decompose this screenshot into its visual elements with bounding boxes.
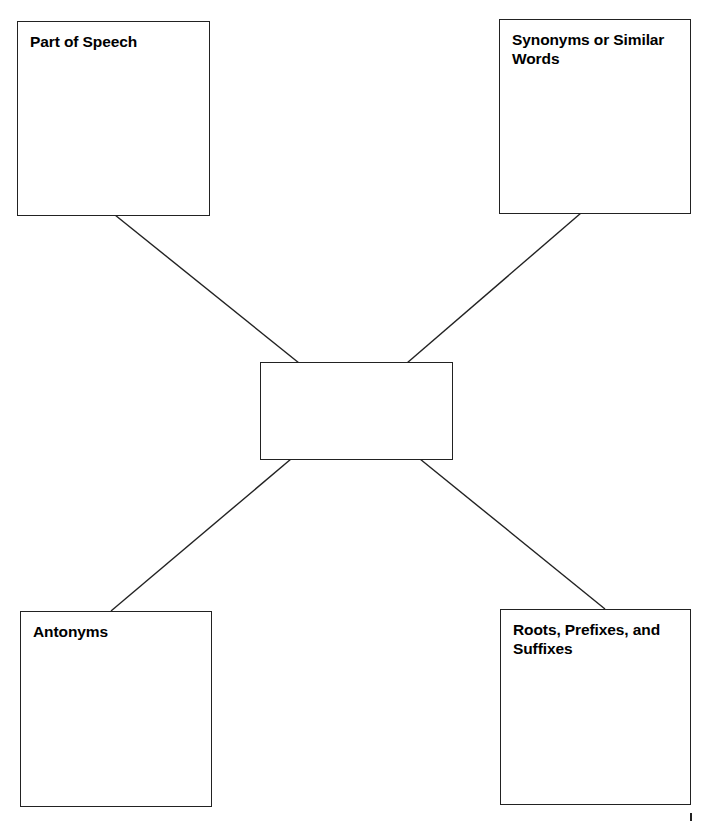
page-edge-mark xyxy=(690,813,692,821)
connector-top-left xyxy=(115,215,299,363)
part-of-speech-box[interactable]: Part of Speech xyxy=(17,21,210,216)
antonyms-box[interactable]: Antonyms xyxy=(20,611,212,807)
roots-prefixes-suffixes-label: Roots, Prefixes, and Suffixes xyxy=(513,620,680,658)
synonyms-label: Synonyms or Similar Words xyxy=(512,30,680,68)
connector-bottom-left xyxy=(111,459,291,611)
antonyms-label: Antonyms xyxy=(33,622,201,641)
roots-prefixes-suffixes-box[interactable]: Roots, Prefixes, and Suffixes xyxy=(500,609,691,805)
connector-top-right xyxy=(407,213,581,363)
connector-bottom-right xyxy=(420,459,605,609)
synonyms-box[interactable]: Synonyms or Similar Words xyxy=(499,19,691,214)
part-of-speech-label: Part of Speech xyxy=(30,32,199,51)
center-word-box[interactable] xyxy=(260,362,453,460)
